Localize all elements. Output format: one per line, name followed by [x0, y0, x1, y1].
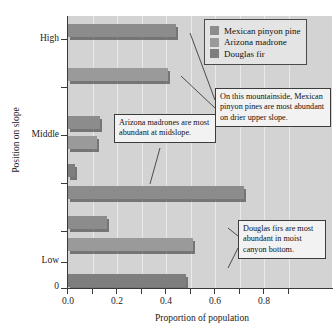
legend-item: Mexican pinyon pine: [210, 26, 300, 36]
chart-figure: Position on slope HighMiddleLow00.00.20.…: [0, 0, 336, 333]
y-tick-label: Low: [0, 255, 59, 265]
x-tick-label: 0.4: [146, 296, 186, 306]
x-axis-tick: [263, 289, 264, 294]
legend-swatch-icon: [210, 26, 219, 35]
legend-swatch-icon: [210, 38, 219, 47]
y-axis-tick: [61, 135, 68, 136]
callout-madrone: Arizona madrones are most abundant at mi…: [114, 114, 216, 143]
bar-mid-madrone: [68, 136, 97, 149]
y-axis-tick: [61, 262, 68, 263]
y-tick-label: High: [0, 33, 59, 43]
bar-mid-fir-long: [68, 186, 244, 199]
callout-fir: Douglas firs are most abundant in moist …: [238, 220, 326, 259]
callout-pinyon: On this mountainside, Mexican pinyon pin…: [215, 88, 331, 127]
x-axis-tick: [190, 289, 191, 294]
bar-mid-pinyon: [68, 116, 100, 129]
x-axis-tick: [92, 289, 93, 294]
bar-low-madrone: [68, 238, 193, 251]
x-tick-label: 0.6: [195, 296, 235, 306]
legend-swatch-icon: [210, 49, 219, 58]
x-axis-tick: [141, 289, 142, 294]
x-tick-label: 0.8: [244, 296, 284, 306]
y-axis-tick: [61, 87, 68, 88]
bar-high-madrone: [68, 68, 168, 81]
y-tick-label: Middle: [0, 129, 59, 139]
x-axis-tick: [67, 289, 68, 294]
legend-item: Arizona madrone: [210, 37, 300, 47]
y-axis-tick: [61, 231, 68, 232]
bar-high-pinyon: [68, 24, 176, 37]
x-tick-label: 0.0: [48, 296, 88, 306]
bar-low-fir: [68, 274, 186, 287]
legend-label: Mexican pinyon pine: [224, 26, 300, 36]
bar-low-pinyon: [68, 216, 107, 229]
y-tick-label: 0: [0, 281, 59, 291]
x-tick-label: 0.2: [97, 296, 137, 306]
y-axis-title: Position on slope: [11, 80, 21, 200]
x-axis-line: [67, 288, 333, 289]
x-axis-tick: [214, 289, 215, 294]
legend-label: Arizona madrone: [224, 37, 287, 47]
x-axis-tick: [116, 289, 117, 294]
x-axis-tick: [239, 289, 240, 294]
x-axis-tick: [288, 289, 289, 294]
legend: Mexican pinyon pineArizona madroneDougla…: [204, 19, 307, 65]
legend-label: Douglas fir: [224, 49, 265, 59]
y-axis-tick: [61, 39, 68, 40]
legend-item: Douglas fir: [210, 49, 300, 59]
y-axis-line: [67, 16, 68, 289]
y-axis-tick: [61, 183, 68, 184]
bar-mid-fir-small: [68, 164, 75, 177]
x-axis-title: Proportion of population: [68, 313, 336, 323]
x-axis-tick: [165, 289, 166, 294]
